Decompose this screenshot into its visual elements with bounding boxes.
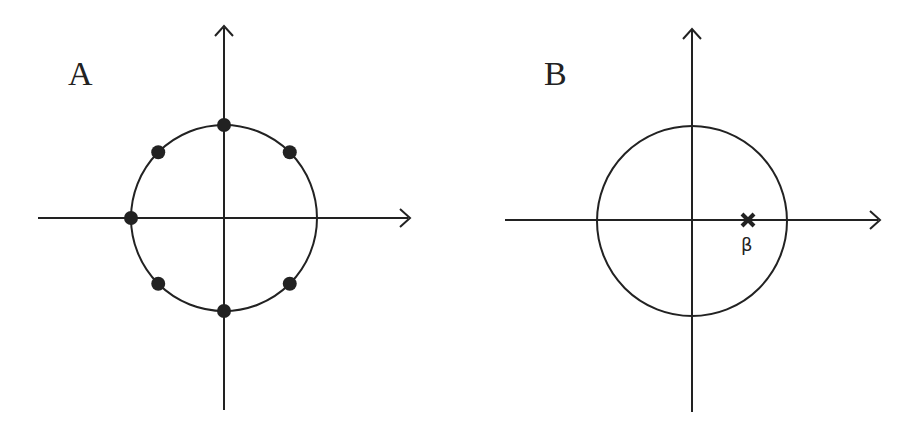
point-dot-icon [151, 277, 165, 291]
beta-label: β [741, 234, 753, 255]
point-dot-icon [283, 277, 297, 291]
point-dot-icon [217, 118, 231, 132]
panel-a-label: A [68, 55, 93, 92]
panel-b: B β [505, 29, 880, 412]
panel-a: A [38, 26, 410, 410]
point-dot-icon [217, 304, 231, 318]
panel-b-label: B [544, 55, 567, 92]
point-dot-icon [124, 211, 138, 225]
figure: A B β [0, 0, 909, 434]
point-dot-icon [283, 145, 297, 159]
point-dot-icon [151, 145, 165, 159]
